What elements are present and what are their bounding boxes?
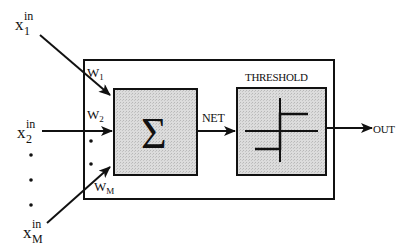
output-label: OUT xyxy=(373,123,395,135)
input-arrow-1 xyxy=(40,35,110,95)
input-label-x2: xin2 xyxy=(17,124,26,141)
input-label-xm: xinM xyxy=(23,224,32,241)
net-label: NET xyxy=(202,111,224,126)
sigma-icon: Σ xyxy=(141,112,167,156)
threshold-label: THRESHOLD xyxy=(245,71,308,83)
weight-label-w2: W2 xyxy=(87,108,104,121)
weight-ellipsis xyxy=(89,139,93,166)
weight-label-w1: W1 xyxy=(87,66,104,79)
weight-label-wm: WM xyxy=(94,180,114,193)
input-label-x1: xin1 xyxy=(15,16,24,33)
input-arrow-m xyxy=(47,167,110,223)
input-ellipsis xyxy=(29,153,33,207)
